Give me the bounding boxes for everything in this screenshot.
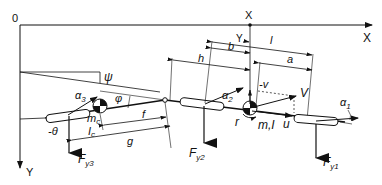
phi-label: φ — [115, 92, 122, 104]
alpha3-label: α3 — [75, 89, 86, 104]
trailer-wheel — [46, 109, 91, 123]
y-axis-label: Y — [26, 166, 34, 178]
vehicle-model-diagram: 0 X Y X Y ψ φ -θ α3 mc — [0, 0, 382, 185]
theta-label: -θ — [48, 125, 58, 137]
psi-angle: ψ — [20, 70, 160, 92]
yaw-rate-label: r — [235, 115, 240, 129]
velocity-label: V — [300, 86, 309, 100]
dimension-b: b — [228, 40, 234, 52]
tractor-mass-inertia-label: m,I — [258, 118, 275, 132]
local-x-label: X — [245, 9, 253, 21]
origin-label: 0 — [12, 12, 18, 24]
trailer-mass-label: mc — [87, 112, 100, 126]
hitch-point — [163, 98, 168, 103]
x-axis-label: X — [363, 31, 371, 45]
dimension-l: l — [270, 34, 273, 46]
trailer-cg-icon — [93, 99, 107, 113]
force-fy1-label: Fy1 — [323, 155, 339, 171]
dimension-g: g — [127, 135, 134, 147]
force-fy2-label: Fy2 — [189, 146, 205, 162]
alpha1-label: α1 — [340, 96, 351, 111]
longitudinal-velocity-label: u — [283, 117, 290, 131]
force-fy3-label: Fy3 — [78, 152, 94, 168]
dimension-f: f — [142, 108, 146, 120]
local-y-label: Y — [236, 33, 243, 44]
dimension-h: h — [198, 52, 204, 64]
dimension-a: a — [287, 53, 293, 65]
psi-label: ψ — [104, 70, 113, 84]
tractor-rear-wheel — [180, 97, 225, 110]
alpha2-label: α2 — [222, 89, 233, 104]
lateral-velocity-label: -v — [259, 78, 270, 90]
